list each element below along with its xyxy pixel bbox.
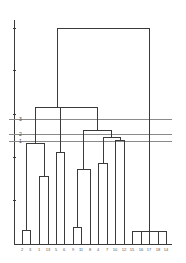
leaf-label: 18 xyxy=(156,247,161,252)
leaf-label: 3 xyxy=(29,247,32,252)
leaf-label: 13 xyxy=(46,247,51,252)
leaf-label: 17 xyxy=(147,247,152,252)
leaf-label: 8 xyxy=(89,247,92,252)
leaf-label: 9 xyxy=(72,247,75,252)
leaf-label: 6 xyxy=(63,247,66,252)
dendrogram: 3 2 1 2 3 xyxy=(0,0,186,263)
leaf-label: 5 xyxy=(55,247,58,252)
leaf-label: 15 xyxy=(130,247,135,252)
leaf-label: 4 xyxy=(97,247,100,252)
leaf-label: 2 xyxy=(21,247,24,252)
leaf-label: 12 xyxy=(122,247,127,252)
leaf-label: 7 xyxy=(106,247,109,252)
cut-label-2: 2 xyxy=(19,131,22,137)
cut-label-1: 1 xyxy=(19,138,22,144)
tree-links xyxy=(22,28,166,244)
leaf-label: 14 xyxy=(164,247,169,252)
leaf-label: 11 xyxy=(79,247,84,252)
leaf-label: 16 xyxy=(139,247,144,252)
cut-label-3: 3 xyxy=(19,116,22,122)
leaf-labels: 2 3 1 13 5 6 9 11 8 4 7 10 12 15 16 17 1… xyxy=(21,247,169,252)
leaf-label: 1 xyxy=(38,247,41,252)
leaf-label: 10 xyxy=(113,247,118,252)
